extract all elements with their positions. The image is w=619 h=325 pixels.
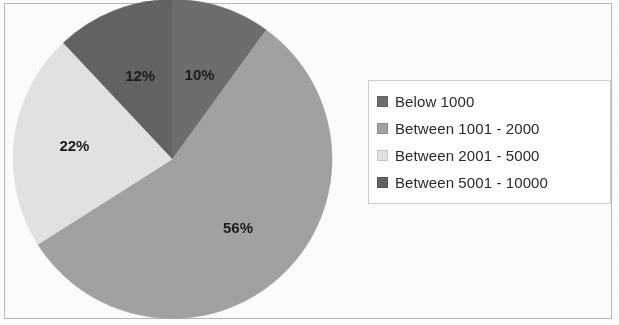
pie-slice-value-label-0: 10% — [185, 66, 215, 83]
pie-slice-value-label-1: 56% — [223, 219, 253, 236]
pie-chart-figure: 10%56%22%12% Below 1000 Between 1001 - 2… — [0, 0, 619, 325]
legend-item-below-1000[interactable]: Below 1000 — [377, 88, 604, 115]
legend-swatch-icon-2 — [377, 150, 388, 161]
legend-item-between-2001-5000[interactable]: Between 2001 - 5000 — [377, 142, 604, 169]
legend-swatch-icon-3 — [377, 177, 388, 188]
legend-item-between-1001-2000[interactable]: Between 1001 - 2000 — [377, 115, 604, 142]
pie-plot-area: 10%56%22%12% — [12, 0, 333, 320]
legend-item-between-5001-10000[interactable]: Between 5001 - 10000 — [377, 169, 604, 196]
legend-label-3: Between 5001 - 10000 — [395, 174, 548, 191]
legend-swatch-icon-0 — [377, 96, 388, 107]
pie-slice-value-label-2: 22% — [59, 137, 89, 154]
legend-label-2: Between 2001 - 5000 — [395, 147, 540, 164]
legend-label-1: Between 1001 - 2000 — [395, 120, 540, 137]
chart-legend: Below 1000 Between 1001 - 2000 Between 2… — [368, 80, 611, 204]
pie-slices-group — [13, 0, 332, 319]
legend-swatch-icon-1 — [377, 123, 388, 134]
legend-label-0: Below 1000 — [395, 93, 474, 110]
pie-slice-value-label-3: 12% — [125, 67, 155, 84]
pie-chart-svg: 10%56%22%12% — [12, 0, 333, 320]
